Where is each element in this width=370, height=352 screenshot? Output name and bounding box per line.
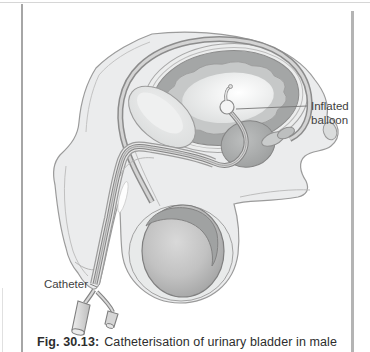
inflated-balloon-label-line1: Inflated [311, 100, 349, 112]
figure-caption-text: Catheterisation of urinary bladder in ma… [104, 335, 337, 349]
figure-number: Fig. 30.13: [37, 335, 99, 349]
catheter-label: Catheter [44, 278, 88, 290]
figure-caption: Fig. 30.13:Catheterisation of urinary bl… [24, 335, 350, 349]
inflated-balloon-label-line2: balloon [311, 114, 348, 126]
anatomy-illustration: Inflated balloon Catheter [0, 0, 370, 352]
catheter-external [71, 290, 118, 336]
catheter-tip-eye [229, 85, 233, 89]
figure-panel: Inflated balloon Catheter Fig. 30.13:Cat… [0, 0, 370, 352]
